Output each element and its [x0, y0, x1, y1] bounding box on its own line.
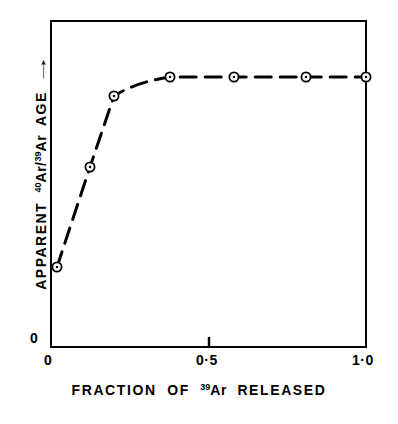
x-tick-label-05: 0·5: [196, 352, 218, 368]
x-axis-title-of: OF: [167, 382, 190, 398]
x-axis-title-mass-number: 39: [200, 382, 210, 392]
y-axis-title-age: AGE: [33, 91, 49, 126]
y-axis-title-slash: /: [33, 161, 49, 165]
figure-root: 0 0·5 1·0 0 FRACTION OF 39Ar RELEASED AP…: [0, 0, 398, 424]
y-axis-increasing-arrow-icon: →: [33, 54, 48, 86]
y-axis-title-container: APPARENT 40Ar/39Ar AGE→: [29, 35, 53, 325]
x-tick-label-0: 0: [44, 352, 52, 368]
y-axis-title-element-ar-39: Ar: [33, 135, 49, 152]
x-tick-label-10: 1·0: [352, 352, 374, 368]
y-axis-title-mass-number-39: 39: [33, 151, 43, 161]
x-axis-title-element: Ar: [210, 382, 227, 398]
y-axis-title: APPARENT 40Ar/39Ar AGE→: [33, 70, 49, 290]
x-axis-title-released: RELEASED: [237, 382, 326, 398]
x-axis-title-fraction: FRACTION: [72, 382, 157, 398]
y-axis-title-mass-number-40: 40: [33, 182, 43, 192]
y-tick-label-0: 0: [30, 330, 38, 346]
plot-frame: [50, 20, 367, 348]
x-axis-title: FRACTION OF 39Ar RELEASED: [0, 382, 398, 398]
y-axis-title-apparent: APPARENT: [33, 202, 49, 290]
y-axis-title-element-ar-40: Ar: [33, 166, 49, 183]
